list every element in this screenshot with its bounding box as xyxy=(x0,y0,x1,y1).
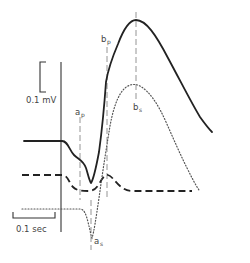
marker-b-s-base: b xyxy=(133,102,138,112)
marker-b-s-sub: s xyxy=(139,106,142,113)
marker-a-s-sub: s xyxy=(100,240,103,247)
voltage-scale-label: 0.1 mV xyxy=(26,95,56,105)
marker-b-p-sub: p xyxy=(107,38,111,46)
marker-a-s-base: a xyxy=(94,236,99,246)
marker-a-p-sub: p xyxy=(81,111,85,119)
time-scale-bar xyxy=(13,212,55,218)
marker-b-p: b p xyxy=(101,34,111,46)
marker-b-s: b s xyxy=(133,102,142,113)
marker-a-s: a s xyxy=(94,236,103,247)
time-scale-label: 0.1 sec xyxy=(16,224,47,234)
marker-a-p-base: a xyxy=(75,107,80,117)
trace-dotted xyxy=(22,85,199,239)
voltage-scale-bar xyxy=(40,62,46,92)
marker-b-p-base: b xyxy=(101,34,106,44)
electrophysiology-figure: 0.1 mV 0.1 sec a p b p b s a s xyxy=(0,0,250,263)
